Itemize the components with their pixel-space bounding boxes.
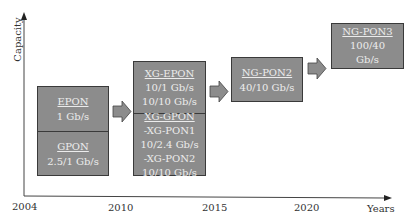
xg-epon-rate-1: 10/1 Gb/s [134, 81, 205, 95]
arrow-right-icon [210, 81, 228, 102]
stage-ng-pon2-box: NG-PON2 40/10 Gb/s [231, 57, 303, 102]
x-axis-line [24, 196, 385, 198]
epon-title: EPON [38, 94, 108, 109]
stage-xg-box: XG-EPON 10/1 Gb/s 10/10 Gb/s XG-GPON -XG… [133, 61, 206, 176]
gpon-title: GPON [38, 139, 108, 154]
x-tick-2015: 2015 [202, 202, 227, 213]
xg-pon2-label: -XG-PON2 [134, 152, 205, 166]
pon-evolution-diagram: Capacity 2004 2010 2015 2020 Years EPON … [0, 0, 415, 223]
ng-pon2-rate: 40/10 Gb/s [232, 80, 302, 95]
xg-pon2-rate: 10/10 Gb/s [134, 166, 205, 180]
epon-rate: 1 Gb/s [38, 109, 108, 124]
x-axis-arrowhead-icon [384, 195, 392, 201]
stage-epon-gpon-box: EPON 1 Gb/s GPON 2.5/1 Gb/s [37, 86, 109, 176]
ng-pon2-title: NG-PON2 [232, 65, 302, 80]
gpon-rate: 2.5/1 Gb/s [38, 154, 108, 169]
epon-section: EPON 1 Gb/s [38, 87, 108, 132]
y-axis-label: Capacity [12, 15, 23, 65]
xg-epon-section: XG-EPON 10/1 Gb/s 10/10 Gb/s [134, 62, 205, 114]
stage-ng-pon3-box: NG-PON3 100/40 Gb/s [331, 23, 404, 69]
ng-pon3-rate-1: 100/40 [332, 39, 403, 53]
xg-epon-rate-2: 10/10 Gb/s [134, 95, 205, 109]
arrow-right-icon [113, 101, 131, 122]
xg-pon1-label: -XG-PON1 [134, 124, 205, 138]
x-tick-2020: 2020 [294, 202, 319, 213]
arrow-right-icon [308, 58, 326, 79]
xg-pon1-rate: 10/2.4 Gb/s [134, 138, 205, 152]
xg-gpon-title: XG-GPON [134, 110, 205, 124]
x-tick-2004: 2004 [12, 201, 37, 212]
x-tick-2010: 2010 [108, 202, 133, 213]
ng-pon3-rate-2: Gb/s [332, 53, 403, 67]
gpon-section: GPON 2.5/1 Gb/s [38, 132, 108, 175]
ng-pon3-title: NG-PON3 [332, 25, 403, 39]
xg-epon-title: XG-EPON [134, 67, 205, 81]
x-axis-label: Years [367, 203, 395, 214]
xg-gpon-section: XG-GPON -XG-PON1 10/2.4 Gb/s -XG-PON2 10… [134, 114, 205, 175]
